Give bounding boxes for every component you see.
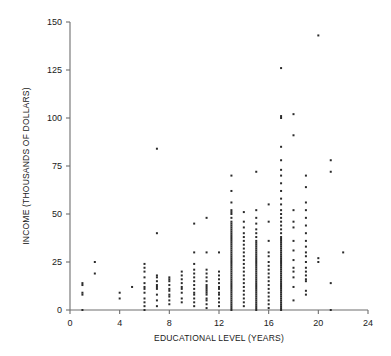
data-point bbox=[280, 225, 282, 227]
data-point bbox=[293, 134, 295, 136]
data-point bbox=[255, 288, 257, 290]
data-point bbox=[255, 271, 257, 273]
data-point bbox=[230, 303, 232, 305]
x-tick-label: 16 bbox=[264, 318, 274, 328]
data-point bbox=[81, 309, 83, 311]
data-point bbox=[255, 257, 257, 259]
data-point bbox=[280, 296, 282, 298]
data-point bbox=[206, 307, 208, 309]
data-point bbox=[293, 249, 295, 251]
data-point bbox=[243, 290, 245, 292]
data-point bbox=[280, 169, 282, 171]
data-point bbox=[317, 257, 319, 259]
data-point bbox=[230, 286, 232, 288]
data-point bbox=[280, 280, 282, 282]
data-point bbox=[168, 288, 170, 290]
data-point bbox=[280, 286, 282, 288]
data-point bbox=[280, 217, 282, 219]
data-point bbox=[330, 159, 332, 161]
y-tick-labels: 0255075100125150 bbox=[47, 17, 62, 315]
data-point bbox=[230, 190, 232, 192]
data-point bbox=[230, 278, 232, 280]
data-point bbox=[305, 278, 307, 280]
data-point bbox=[243, 274, 245, 276]
data-point bbox=[255, 273, 257, 275]
data-point bbox=[268, 299, 270, 301]
data-point bbox=[293, 271, 295, 273]
data-point bbox=[280, 284, 282, 286]
data-point bbox=[230, 294, 232, 296]
data-point bbox=[280, 221, 282, 223]
data-point bbox=[305, 186, 307, 188]
data-point bbox=[156, 299, 158, 301]
data-point bbox=[293, 226, 295, 228]
data-point bbox=[280, 274, 282, 276]
data-point bbox=[230, 265, 232, 267]
data-point bbox=[243, 232, 245, 234]
data-point bbox=[156, 148, 158, 150]
data-point bbox=[144, 297, 146, 299]
data-point bbox=[144, 267, 146, 269]
data-point bbox=[81, 284, 83, 286]
data-point bbox=[218, 292, 220, 294]
data-points-group bbox=[81, 34, 344, 311]
data-point bbox=[193, 284, 195, 286]
data-point bbox=[144, 305, 146, 307]
data-point bbox=[280, 248, 282, 250]
data-point bbox=[94, 261, 96, 263]
data-point bbox=[206, 294, 208, 296]
data-point bbox=[206, 284, 208, 286]
data-point bbox=[230, 273, 232, 275]
data-point bbox=[230, 292, 232, 294]
data-point bbox=[268, 296, 270, 298]
data-point bbox=[255, 284, 257, 286]
data-point bbox=[156, 276, 158, 278]
data-point bbox=[280, 213, 282, 215]
data-point bbox=[243, 211, 245, 213]
data-point bbox=[193, 263, 195, 265]
data-point bbox=[293, 221, 295, 223]
data-point bbox=[94, 273, 96, 275]
data-point bbox=[280, 251, 282, 253]
data-point bbox=[255, 286, 257, 288]
data-point bbox=[193, 269, 195, 271]
data-point bbox=[255, 244, 257, 246]
data-point bbox=[168, 278, 170, 280]
data-point bbox=[168, 280, 170, 282]
data-point bbox=[243, 294, 245, 296]
data-point bbox=[243, 271, 245, 273]
data-point bbox=[243, 244, 245, 246]
x-axis-title: EDUCATIONAL LEVEL (YEARS) bbox=[154, 333, 284, 343]
y-axis-title: INCOME (THOUSANDS OF DOLLARS) bbox=[21, 87, 31, 244]
data-point bbox=[193, 297, 195, 299]
data-point bbox=[181, 282, 183, 284]
data-point bbox=[230, 240, 232, 242]
data-point bbox=[243, 236, 245, 238]
data-point bbox=[193, 223, 195, 225]
data-point bbox=[230, 209, 232, 211]
data-point bbox=[268, 284, 270, 286]
data-point bbox=[156, 286, 158, 288]
data-point bbox=[280, 263, 282, 265]
data-point bbox=[156, 232, 158, 234]
data-point bbox=[255, 267, 257, 269]
data-point bbox=[268, 288, 270, 290]
data-point bbox=[268, 261, 270, 263]
data-point bbox=[255, 282, 257, 284]
data-point bbox=[230, 263, 232, 265]
data-point bbox=[255, 249, 257, 251]
data-point bbox=[255, 305, 257, 307]
data-point bbox=[280, 292, 282, 294]
data-point bbox=[255, 255, 257, 257]
data-point bbox=[305, 255, 307, 257]
data-point bbox=[280, 209, 282, 211]
data-point bbox=[280, 228, 282, 230]
data-point bbox=[230, 261, 232, 263]
data-point bbox=[206, 290, 208, 292]
data-point bbox=[119, 297, 121, 299]
data-point bbox=[280, 294, 282, 296]
data-point bbox=[156, 274, 158, 276]
data-point bbox=[305, 217, 307, 219]
data-point bbox=[293, 299, 295, 301]
data-point bbox=[305, 240, 307, 242]
